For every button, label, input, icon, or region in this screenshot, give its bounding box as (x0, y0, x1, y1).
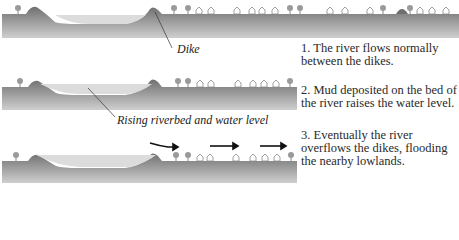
rising-riverbed-label: Rising riverbed and water level (117, 113, 268, 128)
step-1-text: 1. The river flows normally between the … (301, 42, 459, 68)
panel-rising-riverbed (2, 78, 297, 117)
step-3-text: 3. Eventually the river overflows the di… (301, 129, 459, 168)
flow-arrows (150, 143, 286, 150)
dike-label: Dike (177, 42, 200, 57)
step-2-text: 2. Mud deposited on the bed of the river… (301, 84, 459, 110)
panel-overflow (2, 143, 297, 183)
